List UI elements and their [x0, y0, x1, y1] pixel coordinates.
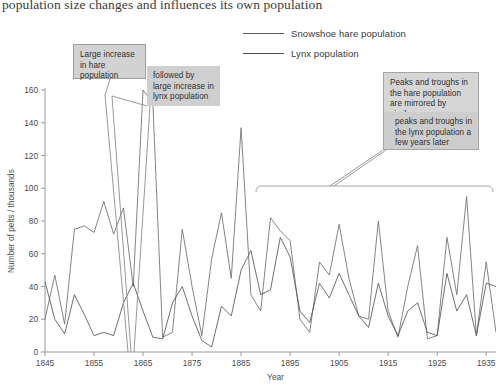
svg-text:60: 60 — [29, 249, 39, 259]
svg-text:160: 160 — [24, 85, 38, 95]
annotation-hare-increase: Large increase in hare population — [73, 44, 146, 79]
chart-page: population size changes and influences i… — [0, 0, 496, 391]
svg-text:1855: 1855 — [85, 358, 104, 368]
annotation-mirror-hare: Peaks and troughs in the hare population… — [383, 72, 479, 112]
annotation-mirror-lynx: peaks and troughs in the lynx population… — [383, 112, 479, 150]
svg-text:1845: 1845 — [36, 358, 55, 368]
svg-text:80: 80 — [29, 216, 39, 226]
svg-text:140: 140 — [24, 118, 38, 128]
svg-text:1935: 1935 — [477, 358, 496, 368]
svg-text:40: 40 — [29, 282, 39, 292]
svg-text:20: 20 — [29, 314, 39, 324]
leader-mirror-b — [334, 150, 386, 186]
svg-text:100: 100 — [24, 183, 38, 193]
svg-text:120: 120 — [24, 151, 38, 161]
svg-text:0: 0 — [33, 347, 38, 357]
y-axis-title: Number of pelts / thousands — [6, 169, 16, 273]
x-axis-title: Year — [267, 372, 284, 382]
leader-mirror-a — [330, 150, 383, 186]
bracket-mirrored-region — [256, 186, 493, 192]
svg-text:1915: 1915 — [379, 358, 398, 368]
svg-text:1925: 1925 — [428, 358, 447, 368]
svg-text:1875: 1875 — [183, 358, 202, 368]
svg-text:1895: 1895 — [281, 358, 300, 368]
svg-text:1885: 1885 — [232, 358, 251, 368]
svg-text:1865: 1865 — [134, 358, 153, 368]
svg-text:1905: 1905 — [330, 358, 349, 368]
series-line-lynx — [45, 237, 496, 347]
annotation-lynx-increase: followed by large increase in lynx popul… — [147, 66, 220, 106]
